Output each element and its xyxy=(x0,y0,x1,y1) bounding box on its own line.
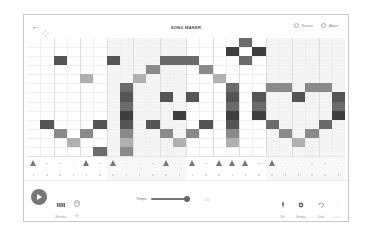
percussion-empty-dot[interactable] xyxy=(59,163,61,165)
note-cell[interactable] xyxy=(292,138,305,147)
percussion-triangle-note[interactable] xyxy=(189,160,195,166)
note-cell[interactable] xyxy=(173,111,186,120)
note-cell[interactable] xyxy=(279,83,292,92)
note-cell[interactable] xyxy=(332,111,345,120)
note-cell[interactable] xyxy=(226,83,239,92)
note-cell[interactable] xyxy=(186,92,199,101)
restart-button[interactable]: Restart xyxy=(294,23,313,28)
save-button[interactable]: Save xyxy=(329,194,345,219)
note-cell[interactable] xyxy=(146,65,159,74)
note-cell[interactable] xyxy=(173,56,186,65)
note-cell[interactable] xyxy=(120,129,133,138)
note-cell[interactable] xyxy=(305,129,318,138)
percussion-triangle-note[interactable] xyxy=(83,160,89,166)
note-cell[interactable] xyxy=(305,83,318,92)
undo-button[interactable]: Undo xyxy=(313,194,329,219)
percussion-empty-dot[interactable] xyxy=(258,163,260,165)
percussion-empty-dot[interactable] xyxy=(218,174,220,176)
melody-grid[interactable] xyxy=(27,38,345,156)
percussion-empty-dot[interactable] xyxy=(126,174,128,176)
note-cell[interactable] xyxy=(54,56,67,65)
percussion-empty-dot[interactable] xyxy=(285,174,287,176)
play-button[interactable] xyxy=(31,189,47,205)
note-cell[interactable] xyxy=(292,92,305,101)
percussion-empty-dot[interactable] xyxy=(152,174,154,176)
percussion-empty-dot[interactable] xyxy=(192,174,194,176)
percussion-empty-dot[interactable] xyxy=(46,174,48,176)
percussion-triangle-note[interactable] xyxy=(242,160,248,166)
note-cell[interactable] xyxy=(80,129,93,138)
note-cell[interactable] xyxy=(252,47,265,56)
instrument-button[interactable]: Marimba xyxy=(53,194,69,219)
note-cell[interactable] xyxy=(93,147,106,156)
note-cell[interactable] xyxy=(239,38,252,47)
percussion-grid[interactable] xyxy=(27,156,345,181)
percussion-triangle-note[interactable] xyxy=(163,160,169,166)
percussion-empty-dot[interactable] xyxy=(271,174,273,176)
about-button[interactable]: About xyxy=(321,23,338,28)
percussion-empty-dot[interactable] xyxy=(245,174,247,176)
note-cell[interactable] xyxy=(199,120,212,129)
note-cell[interactable] xyxy=(120,102,133,111)
mic-button[interactable]: Mic xyxy=(276,194,290,219)
percussion-empty-dot[interactable] xyxy=(205,163,207,165)
note-cell[interactable] xyxy=(120,138,133,147)
note-cell[interactable] xyxy=(120,120,133,129)
percussion-empty-dot[interactable] xyxy=(46,163,48,165)
settings-button[interactable]: Settings xyxy=(290,194,312,219)
percussion-empty-dot[interactable] xyxy=(73,174,75,176)
note-cell[interactable] xyxy=(160,92,173,101)
note-cell[interactable] xyxy=(80,74,93,83)
note-cell[interactable] xyxy=(279,129,292,138)
percussion-empty-dot[interactable] xyxy=(165,174,167,176)
note-cell[interactable] xyxy=(226,47,239,56)
note-cell[interactable] xyxy=(332,102,345,111)
note-cell[interactable] xyxy=(146,120,159,129)
note-cell[interactable] xyxy=(67,138,80,147)
percussion-empty-dot[interactable] xyxy=(324,174,326,176)
percussion-empty-dot[interactable] xyxy=(205,174,207,176)
percussion-empty-dot[interactable] xyxy=(324,163,326,165)
note-cell[interactable] xyxy=(199,65,212,74)
note-cell[interactable] xyxy=(120,92,133,101)
percussion-empty-dot[interactable] xyxy=(179,163,181,165)
note-cell[interactable] xyxy=(40,120,53,129)
note-cell[interactable] xyxy=(120,147,133,156)
tempo-slider[interactable] xyxy=(151,198,187,200)
note-cell[interactable] xyxy=(226,129,239,138)
percussion-empty-dot[interactable] xyxy=(126,163,128,165)
percussion-empty-dot[interactable] xyxy=(86,174,88,176)
percussion-empty-dot[interactable] xyxy=(33,174,35,176)
percussion-empty-dot[interactable] xyxy=(99,174,101,176)
note-cell[interactable] xyxy=(226,138,239,147)
percussion-empty-dot[interactable] xyxy=(285,163,287,165)
note-cell[interactable] xyxy=(226,92,239,101)
percussion-empty-dot[interactable] xyxy=(59,174,61,176)
percussion-empty-dot[interactable] xyxy=(73,163,75,165)
note-cell[interactable] xyxy=(266,120,279,129)
percussion-empty-dot[interactable] xyxy=(258,174,260,176)
note-cell[interactable] xyxy=(239,56,252,65)
note-cell[interactable] xyxy=(160,56,173,65)
note-cell[interactable] xyxy=(107,56,120,65)
percussion-empty-dot[interactable] xyxy=(338,163,340,165)
percussion-empty-dot[interactable] xyxy=(179,174,181,176)
note-cell[interactable] xyxy=(266,83,279,92)
percussion-triangle-note[interactable] xyxy=(216,160,222,166)
note-cell[interactable] xyxy=(93,120,106,129)
note-cell[interactable] xyxy=(120,111,133,120)
percussion-empty-dot[interactable] xyxy=(311,163,313,165)
note-cell[interactable] xyxy=(319,83,332,92)
note-cell[interactable] xyxy=(186,129,199,138)
note-cell[interactable] xyxy=(319,120,332,129)
tempo-value[interactable]: 120 xyxy=(204,198,210,202)
percussion-triangle-note[interactable] xyxy=(30,160,36,166)
note-cell[interactable] xyxy=(133,74,146,83)
note-cell[interactable] xyxy=(160,129,173,138)
note-cell[interactable] xyxy=(54,129,67,138)
percussion-empty-dot[interactable] xyxy=(311,174,313,176)
note-cell[interactable] xyxy=(252,102,265,111)
percussion-empty-dot[interactable] xyxy=(112,174,114,176)
note-cell[interactable] xyxy=(252,92,265,101)
note-cell[interactable] xyxy=(226,102,239,111)
